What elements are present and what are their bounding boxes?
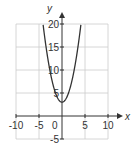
y-tick-label: 15 xyxy=(48,42,60,53)
x-tick-label: 10 xyxy=(102,120,114,131)
tick-labels: -10-5510-55101520 xyxy=(9,19,114,145)
x-axis-arrow-icon xyxy=(117,113,123,119)
y-axis-arrow-icon xyxy=(59,12,65,18)
x-tick-label: -5 xyxy=(35,120,44,131)
x-tick-label: 5 xyxy=(82,120,88,131)
y-tick-label: -5 xyxy=(50,134,59,145)
x-axis-label: x xyxy=(124,111,131,122)
parabola-chart: -10-5510-55101520 x y 0 xyxy=(0,0,134,146)
x-tick-label: -10 xyxy=(9,120,24,131)
y-axis-label: y xyxy=(46,3,53,14)
origin-label: 0 xyxy=(52,120,58,131)
y-tick-label: 20 xyxy=(48,19,60,30)
